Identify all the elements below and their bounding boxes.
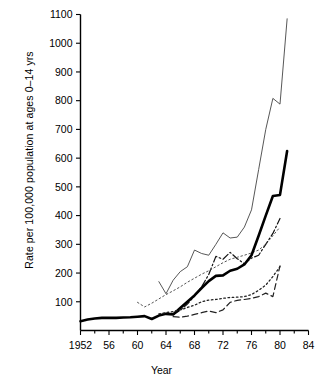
y-tick-label: 800: [55, 94, 73, 106]
line-chart-plot: 1002003004005006007008009001000110019525…: [0, 0, 323, 384]
x-tick-label: 64: [160, 339, 172, 351]
y-tick-label: 700: [55, 123, 73, 135]
x-axis-title: Year: [0, 364, 323, 376]
y-tick-label: 600: [55, 152, 73, 164]
x-tick-label: 68: [189, 339, 201, 351]
y-tick-label: 300: [55, 238, 73, 250]
x-tick-label: 76: [246, 339, 258, 351]
x-tick-label: 56: [103, 339, 115, 351]
chart-figure: Rate per 100,000 population at ages 0–14…: [0, 0, 323, 384]
x-tick-label: 84: [303, 339, 315, 351]
y-tick-label: 1100: [50, 8, 73, 20]
x-tick-label: 80: [274, 339, 286, 351]
x-tick-label: 60: [132, 339, 144, 351]
x-tick-label: 72: [217, 339, 229, 351]
y-tick-label: 200: [55, 267, 73, 279]
y-tick-label: 900: [55, 66, 73, 78]
y-tick-label: 500: [55, 181, 73, 193]
series-thick-solid: [81, 151, 288, 321]
y-tick-label: 1000: [49, 37, 73, 49]
series-dotted-coarse: [159, 267, 280, 314]
x-tick-label: 1952: [69, 339, 93, 351]
series-thin-solid: [159, 19, 287, 294]
y-tick-label: 400: [55, 209, 73, 221]
y-tick-label: 100: [55, 296, 73, 308]
